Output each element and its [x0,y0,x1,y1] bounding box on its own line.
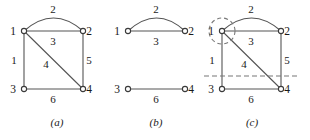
panel-b-vertex-label-4: 4 [188,83,194,95]
panel-c-vertex-label-3: 3 [208,83,214,95]
figure-canvas: 2315461234(a)2361234(b)2315461234(c) [0,0,310,140]
panel-a: 2315461234(a) [10,3,92,129]
panel-c-edge-label-2: 2 [248,3,254,15]
panel-a-vertex-label-1: 1 [10,25,16,37]
panel-c-edge-1-2-w2 [222,18,281,31]
panel-c-vertex-label-2: 2 [284,25,290,37]
figure-render-root: 2315461234(a)2361234(b)2315461234(c) [10,3,300,129]
panel-c-edge-label-6: 6 [248,93,254,105]
panel-a-edge-label-5: 5 [86,54,92,66]
panel-c-vertex-4 [278,86,283,91]
panel-b-vertex-4 [182,86,187,91]
panel-b-edge-label-2: 2 [153,3,159,15]
panel-c-vertex-2 [278,28,283,33]
panel-c-edge-label-1: 1 [209,54,215,66]
panel-c-vertex-label-4: 4 [284,83,290,95]
panel-b: 2361234(b) [114,3,194,129]
panel-c-vertex-label-1: 1 [208,25,214,37]
panel-a-vertex-1 [21,28,26,33]
panel-a-vertex-4 [80,86,85,91]
panel-a-caption: (a) [51,116,64,129]
panel-a-edge-label-4: 4 [43,58,49,70]
panel-a-vertex-2 [80,28,85,33]
panel-a-edge-1-2-w2 [24,18,83,31]
panel-a-edge-label-1: 1 [11,54,17,66]
panel-c-edge-label-3: 3 [248,35,254,47]
panel-b-vertex-label-3: 3 [114,83,120,95]
panel-a-vertex-label-3: 3 [10,83,16,95]
panel-b-caption: (b) [150,116,163,129]
panel-a-edge-label-3: 3 [50,35,56,47]
panel-b-vertex-3 [125,86,130,91]
panel-c-vertex-3 [219,86,224,91]
panel-b-vertex-label-2: 2 [188,25,194,37]
panel-b-vertex-2 [182,28,187,33]
panel-c-edge-label-4: 4 [241,58,247,70]
panel-a-edge-label-2: 2 [50,3,56,15]
panel-c: 2315461234(c) [204,3,300,129]
panel-c-edge-label-5: 5 [284,54,290,66]
panel-b-edge-label-6: 6 [153,93,159,105]
panel-a-edge-label-6: 6 [50,93,56,105]
panel-c-caption: (c) [246,116,259,129]
panel-b-vertex-1 [125,28,130,33]
panel-c-vertex-1 [219,28,224,33]
panel-a-vertex-3 [21,86,26,91]
panel-b-vertex-label-1: 1 [114,25,120,37]
panel-b-edge-label-3: 3 [153,35,159,47]
graph-cut-figure: 2315461234(a)2361234(b)2315461234(c) [0,0,310,140]
panel-a-vertex-label-4: 4 [86,83,92,95]
panel-a-vertex-label-2: 2 [86,25,92,37]
panel-b-edge-1-2-w2 [128,18,185,31]
